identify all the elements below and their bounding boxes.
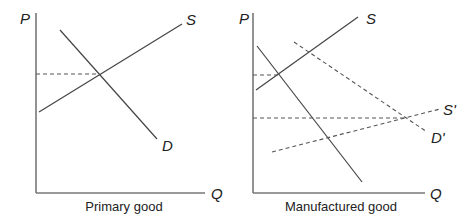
y-axis-label: P: [20, 10, 30, 27]
supply-shifted-curve: [272, 109, 440, 152]
primary-good-panel: P Q S D Primary good: [20, 10, 223, 214]
manufactured-good-panel: P Q S S' D' Manufactured good: [239, 10, 457, 214]
demand-shifted-label: D': [431, 129, 446, 146]
demand-label: D: [162, 137, 173, 154]
x-axis-label: Q: [430, 185, 442, 202]
supply-curve: [256, 17, 358, 90]
supply-label: S: [186, 11, 196, 28]
x-axis-label: Q: [211, 185, 223, 202]
supply-label: S: [366, 10, 376, 27]
supply-demand-diagrams: P Q S D Primary good P Q S S' D' Manufac…: [0, 0, 474, 221]
demand-curve: [60, 30, 157, 139]
supply-shifted-label: S': [443, 101, 457, 118]
demand-curve: [257, 46, 362, 182]
panel-caption: Primary good: [85, 199, 162, 214]
y-axis-label: P: [239, 10, 249, 27]
supply-curve: [39, 24, 182, 112]
panel-caption: Manufactured good: [285, 199, 397, 214]
